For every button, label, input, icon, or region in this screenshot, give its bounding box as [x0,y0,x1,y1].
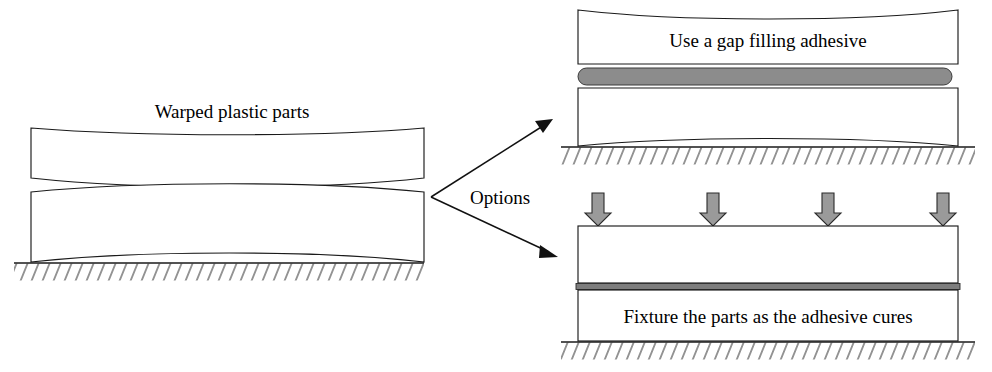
flow-branches: Options [431,119,558,258]
ground-hatch-icon [561,148,975,165]
adhesive-bead [578,68,952,85]
flow-arrow-icon [535,119,553,133]
warped-part-upper [31,128,424,187]
ground-bottom-right [561,342,975,360]
down-arrow-icon [700,193,726,226]
warped-parts-label: Warped plastic parts [155,101,310,122]
ground-hatch-icon [14,264,424,281]
down-arrow-icon [815,193,841,226]
gap-filling-adhesive-panel: Use a gap filling adhesive [561,10,975,165]
adhesive-bondline [576,284,960,290]
flow-arrow-icon [539,245,558,258]
down-arrow-icon [930,193,956,226]
adhesive-options-figure: Warped plastic parts Options [0,0,992,372]
ground-top-right [561,147,975,165]
gap-filling-label: Use a gap filling adhesive [669,30,866,51]
options-label: Options [470,187,530,208]
fixture-part-upper [578,226,958,283]
gap-panel-part-lower [578,88,958,146]
technical-diagram: Warped plastic parts Options [0,0,992,372]
load-arrows [585,193,956,226]
fixture-label: Fixture the parts as the adhesive cures [623,306,912,327]
down-arrow-icon [585,193,611,226]
warped-part-lower [31,184,424,262]
fixture-parts-panel: Fixture the parts as the adhesive cures [561,193,975,360]
warped-parts-panel: Warped plastic parts [14,101,424,281]
ground-left [14,263,424,281]
branch-to-gap-filling [431,119,553,197]
ground-hatch-icon [561,343,975,360]
